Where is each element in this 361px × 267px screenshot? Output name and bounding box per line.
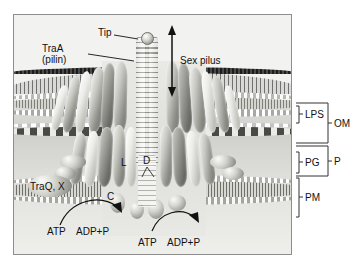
label-subunit-d: D bbox=[143, 155, 150, 166]
cytoplasmic-atpase bbox=[168, 195, 186, 211]
legend-label-lps: LPS bbox=[305, 109, 324, 120]
protein-subunit bbox=[113, 61, 127, 133]
label-traa: TraA (pilin) bbox=[42, 43, 66, 65]
protein-subunit-l bbox=[126, 127, 136, 187]
illustration-panel: Tip TraA (pilin) Sex pilus TraQ, X L D C… bbox=[13, 14, 292, 255]
illustration-canvas: Tip TraA (pilin) Sex pilus TraQ, X L D C… bbox=[14, 15, 291, 254]
label-tip: Tip bbox=[98, 27, 112, 38]
label-adp-left: ADP+P bbox=[76, 226, 109, 237]
sex-pilus-filament bbox=[136, 37, 158, 167]
label-atp-left: ATP bbox=[47, 226, 66, 237]
legend-label-om: OM bbox=[334, 118, 350, 129]
tip-leader-line bbox=[114, 35, 138, 39]
label-traa-name: TraA bbox=[42, 43, 63, 54]
bracket-lps bbox=[296, 106, 303, 123]
cytoplasmic-atpase bbox=[222, 167, 244, 180]
protein-subunit bbox=[160, 125, 172, 187]
bracket-pg bbox=[296, 152, 303, 173]
protein-subunit bbox=[113, 125, 125, 187]
label-subunit-c: C bbox=[107, 191, 114, 202]
figure-root: Tip TraA (pilin) Sex pilus TraQ, X L D C… bbox=[0, 0, 361, 267]
label-atp-right: ATP bbox=[138, 237, 157, 248]
legend-label-pg: PG bbox=[305, 157, 319, 168]
label-sex-pilus: Sex pilus bbox=[180, 55, 221, 66]
label-traq-x: TraQ, X bbox=[30, 181, 65, 192]
legend-label-pm: PM bbox=[305, 192, 320, 203]
pilin-subunit-rings bbox=[136, 37, 158, 167]
label-subunit-l: L bbox=[121, 157, 127, 168]
legend-label-p: P bbox=[334, 156, 341, 167]
label-traa-pilin: (pilin) bbox=[42, 54, 66, 65]
label-adp-right: ADP+P bbox=[167, 237, 200, 248]
traa-leader-line bbox=[88, 54, 134, 61]
pilus-tip-knob bbox=[141, 32, 154, 45]
bracket-pm bbox=[296, 178, 303, 217]
